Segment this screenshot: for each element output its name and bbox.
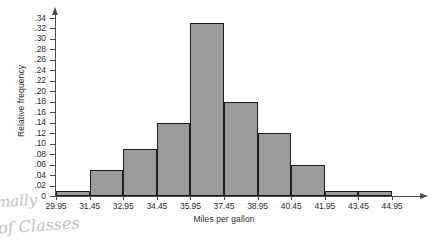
y-tick-label: .16 bbox=[34, 108, 46, 117]
y-tick bbox=[50, 175, 56, 176]
x-tick-label: 43.45 bbox=[348, 201, 369, 211]
x-tick bbox=[56, 196, 57, 200]
histogram-bar bbox=[291, 165, 325, 196]
x-tick-label: 41.95 bbox=[314, 201, 335, 211]
y-tick-label: .28 bbox=[34, 45, 46, 54]
x-tick bbox=[358, 196, 359, 200]
y-tick bbox=[50, 154, 56, 155]
y-tick bbox=[50, 70, 56, 71]
x-tick bbox=[90, 196, 91, 200]
y-tick-label: .10 bbox=[34, 139, 46, 148]
x-tick bbox=[258, 196, 259, 200]
histogram-bar bbox=[258, 133, 292, 196]
x-tick-label: 38.95 bbox=[247, 201, 268, 211]
y-tick-label: .06 bbox=[34, 160, 46, 169]
x-tick-label: 35.95 bbox=[180, 201, 201, 211]
histogram-bar bbox=[190, 23, 224, 196]
y-tick-label: .22 bbox=[34, 76, 46, 85]
y-tick-label: .24 bbox=[34, 66, 46, 75]
y-tick-label: .30 bbox=[34, 34, 46, 43]
handwritten-annotation-2: of Classes bbox=[0, 213, 80, 238]
y-tick-label: .34 bbox=[34, 14, 46, 23]
y-tick bbox=[50, 28, 56, 29]
y-tick-label: .20 bbox=[34, 87, 46, 96]
x-tick-label: 31.45 bbox=[79, 201, 100, 211]
histogram-bar bbox=[325, 191, 359, 196]
x-axis-line bbox=[55, 196, 422, 197]
histogram-bar bbox=[224, 102, 258, 196]
histogram-bar bbox=[358, 191, 392, 196]
y-tick-label: .18 bbox=[34, 97, 46, 106]
x-axis-title: Miles per gallon bbox=[56, 214, 392, 224]
y-tick bbox=[50, 18, 56, 19]
y-axis-title: Relative frequency bbox=[16, 36, 26, 166]
x-tick bbox=[157, 196, 158, 200]
y-tick-label: .26 bbox=[34, 55, 46, 64]
histogram-figure: .34.32.30.28.26.24.22.20.18.16.14.12.10.… bbox=[0, 0, 437, 245]
histogram-bar bbox=[56, 191, 90, 196]
y-tick-label: .12 bbox=[34, 129, 46, 138]
x-tick bbox=[190, 196, 191, 200]
y-tick-label: .14 bbox=[34, 118, 46, 127]
x-tick-label: 37.45 bbox=[214, 201, 235, 211]
histogram-bar bbox=[157, 123, 191, 196]
y-tick bbox=[50, 39, 56, 40]
y-tick bbox=[50, 60, 56, 61]
y-tick bbox=[50, 81, 56, 82]
x-tick-label: 44.95 bbox=[382, 201, 403, 211]
y-tick bbox=[50, 133, 56, 134]
y-tick bbox=[50, 102, 56, 103]
y-axis-line bbox=[55, 14, 56, 197]
x-tick bbox=[325, 196, 326, 200]
x-tick-label: 40.45 bbox=[281, 201, 302, 211]
x-tick-label: 34.45 bbox=[146, 201, 167, 211]
x-tick bbox=[123, 196, 124, 200]
y-tick-label: .08 bbox=[34, 150, 46, 159]
y-tick bbox=[50, 186, 56, 187]
x-tick bbox=[291, 196, 292, 200]
x-tick bbox=[224, 196, 225, 200]
x-tick-label: 29.95 bbox=[46, 201, 67, 211]
y-tick-label: 0 bbox=[41, 192, 46, 201]
histogram-bar bbox=[90, 170, 124, 196]
y-tick-label: .32 bbox=[34, 24, 46, 33]
y-axis-arrow-icon bbox=[52, 7, 58, 15]
histogram-bar bbox=[123, 149, 157, 196]
x-axis-arrow-icon bbox=[420, 193, 428, 199]
y-tick bbox=[50, 144, 56, 145]
y-tick bbox=[50, 49, 56, 50]
y-tick bbox=[50, 123, 56, 124]
x-tick-label: 32.95 bbox=[113, 201, 134, 211]
handwritten-annotation-1: mally bbox=[0, 191, 38, 212]
y-tick bbox=[50, 112, 56, 113]
y-tick-label: .04 bbox=[34, 171, 46, 180]
y-tick bbox=[50, 91, 56, 92]
y-tick-label: .02 bbox=[34, 181, 46, 190]
y-tick bbox=[50, 165, 56, 166]
x-tick bbox=[392, 196, 393, 200]
